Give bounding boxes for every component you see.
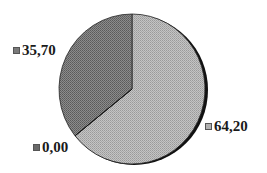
legend-marker-zero xyxy=(33,144,40,151)
legend-marker-dark xyxy=(13,47,20,54)
value-text: 64,20 xyxy=(214,119,248,134)
value-text: 0,00 xyxy=(42,140,68,155)
value-text: 35,70 xyxy=(22,43,56,58)
label-0-00: 0,00 xyxy=(33,140,68,155)
legend-marker-light xyxy=(205,123,212,130)
label-35-70: 35,70 xyxy=(13,43,56,58)
label-64-20: 64,20 xyxy=(205,119,248,134)
